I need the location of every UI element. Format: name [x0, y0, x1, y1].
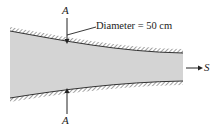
flow-direction-label: S	[204, 62, 210, 73]
section-arrow-bottom	[65, 88, 70, 114]
section-label-bottom: A	[62, 115, 69, 126]
dimension-label: Diameter = 50 cm	[96, 21, 172, 32]
dimension-leader-line	[67, 27, 96, 35]
section-arrow-top	[65, 18, 70, 44]
pipe-diagram: A Diameter = 50 cm A S	[0, 0, 219, 133]
section-label-top: A	[62, 5, 69, 16]
flow-direction-arrow	[186, 66, 203, 71]
